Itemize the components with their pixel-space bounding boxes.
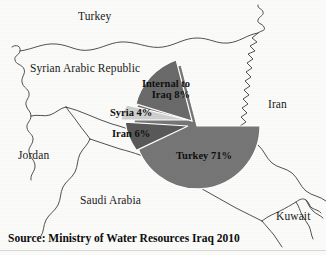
bottom-divider	[0, 250, 326, 251]
pie-label-internal-to-iraq-line2: Iraq 8%	[152, 89, 190, 100]
map-label-saudi-arabia: Saudi Arabia	[80, 194, 141, 206]
map-label-turkey: Turkey	[78, 10, 111, 22]
pie-label-iran: Iran 6%	[112, 128, 150, 139]
pie-label-syria: Syria 4%	[110, 107, 152, 118]
source-note: Source: Ministry of Water Resources Iraq…	[8, 232, 240, 244]
map-label-kuwait: Kuwait	[276, 210, 310, 222]
map-label-jordan: Jordan	[18, 149, 49, 161]
label-layer: Turkey Syrian Arabic Republic Iran Jorda…	[0, 0, 326, 255]
figure-container: Turkey Syrian Arabic Republic Iran Jorda…	[0, 0, 326, 255]
pie-label-turkey: Turkey 71%	[176, 150, 232, 161]
map-label-iran: Iran	[268, 98, 287, 110]
map-label-syrian-arabic-republic: Syrian Arabic Republic	[30, 62, 140, 74]
pie-label-internal-to-iraq-line1: Internal to	[142, 78, 190, 89]
pie-label-internal-to-iraq: Internal to Iraq 8%	[118, 78, 190, 101]
